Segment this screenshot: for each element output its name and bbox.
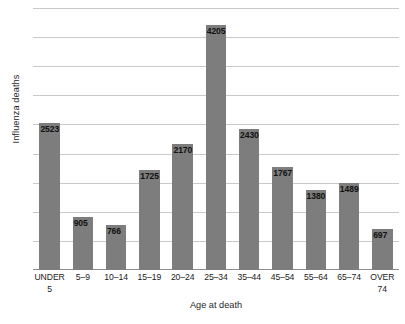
y-axis-title: Influenza deaths: [11, 49, 21, 169]
x-tick-label-line1: 25–34: [204, 272, 228, 282]
bar-value-label: 697: [373, 230, 387, 240]
bar[interactable]: [206, 25, 226, 270]
x-tick-label: 10–14: [100, 272, 133, 284]
bar-value-label: 1489: [340, 184, 359, 194]
x-tick-label: 25–34: [199, 272, 232, 284]
bar-slot: 905: [73, 8, 93, 270]
bar[interactable]: [239, 129, 259, 270]
bar-value-label: 766: [107, 226, 121, 236]
x-tick-label: 5–9: [66, 272, 99, 284]
bar-slot: 4205: [206, 8, 226, 270]
bar-value-label: 1725: [140, 171, 159, 181]
x-tick-label: UNDER5: [33, 272, 66, 295]
caption-remnant: [120, 316, 350, 321]
bar[interactable]: [272, 167, 292, 270]
bars-layer: 2523905766172521704205243017671380148969…: [33, 8, 399, 270]
bar[interactable]: [172, 144, 192, 270]
x-tick-label: 15–19: [133, 272, 166, 284]
x-tick-label-line1: 20–24: [171, 272, 195, 282]
x-tick-label-line1: UNDER: [34, 272, 64, 282]
bar-value-label: 2523: [40, 124, 59, 134]
bar[interactable]: [306, 190, 326, 270]
bar-value-label: 2430: [240, 130, 259, 140]
x-axis-title: Age at death: [33, 300, 399, 310]
x-tick-label-line2: 5: [33, 284, 66, 296]
influenza-deaths-bar-chart: Influenza deaths 25239057661725217042052…: [0, 0, 405, 324]
bar-slot: 2170: [172, 8, 192, 270]
x-tick-label: OVER74: [366, 272, 399, 295]
bar-slot: 1489: [339, 8, 359, 270]
x-tick-label-line1: OVER: [370, 272, 394, 282]
x-tick-label: 45–54: [266, 272, 299, 284]
x-tick-label-line1: 15–19: [138, 272, 162, 282]
bar[interactable]: [339, 183, 359, 270]
x-tick-label-line1: 45–54: [271, 272, 295, 282]
x-tick-label-line1: 5–9: [76, 272, 90, 282]
x-tick-label: 65–74: [332, 272, 365, 284]
x-tick-label: 20–24: [166, 272, 199, 284]
bar-value-label: 4205: [207, 26, 226, 36]
bar-slot: 1380: [306, 8, 326, 270]
bar-value-label: 1767: [273, 168, 292, 178]
bar-value-label: 1380: [307, 191, 326, 201]
x-tick-label: 35–44: [233, 272, 266, 284]
bar-slot: 1725: [139, 8, 159, 270]
bar[interactable]: [139, 170, 159, 270]
bar-slot: 1767: [272, 8, 292, 270]
x-tick-label-line1: 55–64: [304, 272, 328, 282]
x-tick-label-line1: 35–44: [237, 272, 261, 282]
plot-area: 2523905766172521704205243017671380148969…: [33, 8, 399, 270]
bar-value-label: 905: [74, 218, 88, 228]
bar-value-label: 2170: [173, 145, 192, 155]
bar[interactable]: [39, 123, 59, 270]
x-tick-label-line1: 10–14: [104, 272, 128, 282]
x-tick-label-line1: 65–74: [337, 272, 361, 282]
bar-slot: 2430: [239, 8, 259, 270]
bar-slot: 2523: [39, 8, 59, 270]
x-tick-label: 55–64: [299, 272, 332, 284]
x-tick-label-line2: 74: [366, 284, 399, 296]
bar-slot: 697: [372, 8, 392, 270]
bar-slot: 766: [106, 8, 126, 270]
